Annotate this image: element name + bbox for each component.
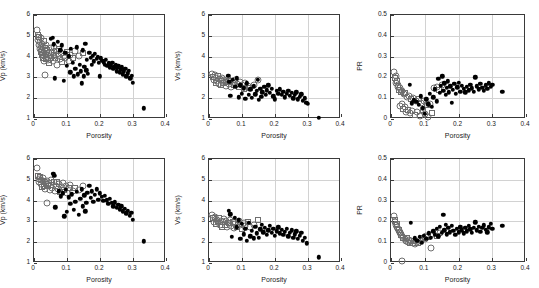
data-point-filled [253, 92, 257, 96]
y-tick [391, 119, 394, 120]
data-point-filled [291, 236, 295, 240]
y-tick [34, 119, 37, 120]
x-tick-label: 0 [388, 265, 392, 272]
y-tick-label: 1 [186, 115, 205, 122]
gridline-vertical [133, 159, 134, 261]
y-axis-title: Vs (km/s) [174, 51, 181, 81]
data-point-filled [90, 63, 94, 67]
data-point-filled [317, 255, 321, 259]
x-tick-label: 0.4 [520, 121, 529, 128]
y-tick [391, 263, 394, 264]
plot-area-vs-40mpa [208, 158, 340, 262]
y-tick [209, 36, 212, 37]
y-tick-label: 0.5 [368, 11, 387, 18]
gridline-vertical [275, 15, 276, 117]
y-tick-label: 6 [11, 155, 30, 162]
plot-area-vs-10mpa [208, 14, 340, 118]
x-tick-label: 0.1 [236, 265, 245, 272]
y-tick [34, 77, 37, 78]
x-tick [341, 258, 342, 261]
panel-pr-10mpa [390, 14, 525, 118]
data-point-open [34, 165, 41, 172]
x-tick-label: 0.2 [94, 265, 103, 272]
x-tick [166, 114, 167, 117]
x-tick [67, 114, 68, 117]
data-point-filled [251, 236, 255, 240]
data-point-filled [52, 174, 56, 178]
y-tick [209, 201, 212, 202]
y-tick [34, 242, 37, 243]
gridline-horizontal [391, 77, 524, 78]
gridline-vertical [459, 159, 460, 261]
data-point-filled [299, 231, 303, 235]
y-tick-label: 0.1 [368, 238, 387, 245]
data-point-filled [60, 43, 64, 47]
x-tick-label: 0.1 [61, 121, 70, 128]
gridline-vertical [308, 159, 309, 261]
x-tick-label: 0 [31, 121, 35, 128]
x-tick-label: 0 [206, 265, 210, 272]
data-point-filled [429, 105, 433, 109]
x-tick-label: 0 [206, 121, 210, 128]
panel-vs-40mpa [208, 158, 340, 262]
y-tick-label: 5 [11, 32, 30, 39]
gridline-horizontal [209, 201, 339, 202]
x-tick-label: 0.3 [487, 265, 496, 272]
y-tick [391, 98, 394, 99]
x-tick [391, 258, 392, 261]
data-point-filled [450, 224, 454, 228]
data-point-filled [473, 75, 477, 79]
gridline-horizontal [209, 57, 339, 58]
data-point-filled [79, 69, 83, 73]
y-tick [34, 263, 37, 264]
x-axis-title: Porosity [86, 276, 111, 283]
x-tick [391, 114, 392, 117]
data-point-filled [273, 97, 277, 101]
data-point-open [427, 245, 434, 252]
x-tick [133, 114, 134, 117]
data-point-filled [93, 193, 97, 197]
y-axis-title: Vs (km/s) [174, 195, 181, 225]
y-tick [34, 57, 37, 58]
x-tick [459, 258, 460, 261]
y-axis-title: PR [356, 205, 363, 215]
gridline-vertical [492, 159, 493, 261]
y-tick-label: 0.5 [368, 155, 387, 162]
y-tick [209, 119, 212, 120]
y-tick [34, 98, 37, 99]
data-point-filled [265, 233, 269, 237]
data-point-filled [243, 226, 247, 230]
x-tick-label: 0.1 [419, 265, 428, 272]
y-tick-label: 0.1 [368, 94, 387, 101]
x-tick [209, 258, 210, 261]
y-tick-label: 0.4 [368, 32, 387, 39]
x-tick-label: 0.2 [269, 121, 278, 128]
data-point-filled [302, 235, 306, 239]
data-point-filled [445, 79, 449, 83]
data-point-filled [243, 96, 247, 100]
data-point-filled [51, 36, 55, 40]
gridline-vertical [459, 15, 460, 117]
x-tick-label: 0.4 [160, 265, 169, 272]
y-tick-label: 5 [186, 32, 205, 39]
y-tick-label: 2 [186, 94, 205, 101]
data-point-filled [73, 66, 77, 70]
data-point-filled [436, 234, 440, 238]
x-tick-label: 0.1 [419, 121, 428, 128]
y-tick [34, 159, 37, 160]
data-point-filled [490, 226, 494, 230]
y-tick-label: 4 [186, 52, 205, 59]
y-tick-label: 0.2 [368, 217, 387, 224]
x-tick-label: 0.4 [160, 121, 169, 128]
y-tick-label: 0.3 [368, 196, 387, 203]
data-point-filled [71, 61, 75, 65]
x-tick [308, 258, 309, 261]
x-tick [492, 114, 493, 117]
data-point-filled [500, 89, 504, 93]
y-tick-label: 2 [186, 238, 205, 245]
data-point-filled [80, 81, 84, 85]
data-point-filled [65, 64, 69, 68]
data-point-filled [306, 102, 310, 106]
data-point-filled [131, 80, 135, 84]
gridline-horizontal [34, 98, 164, 99]
